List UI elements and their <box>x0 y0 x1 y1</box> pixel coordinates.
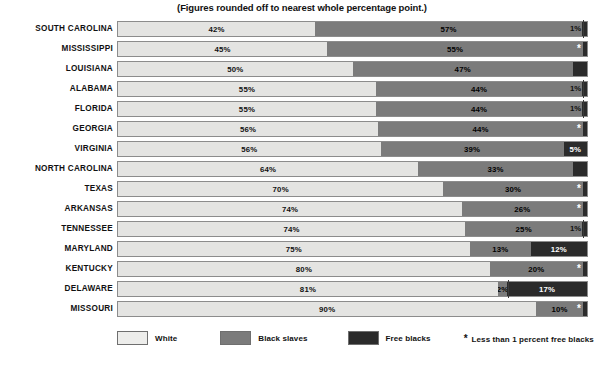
legend-swatch-black-slaves-icon <box>220 331 251 345</box>
stacked-bar: 64%33% <box>117 161 588 177</box>
chart-row: MARYLAND75%13%12% <box>0 240 604 260</box>
legend-footnote: * Less than 1 percent free blacks <box>464 333 594 344</box>
segment-white: 74% <box>118 202 462 216</box>
state-label: DELAWARE <box>0 280 113 297</box>
segment-divider-tick <box>583 100 584 118</box>
segment-free-blacks-value: 1% <box>557 221 581 237</box>
segment-black-slaves: 39% <box>381 142 564 156</box>
segment-divider-tick <box>508 280 509 298</box>
segment-free-blacks-value: 17% <box>539 285 555 294</box>
stacked-bar: 74%25% <box>117 221 588 237</box>
segment-black-slaves-value: 13% <box>492 245 508 254</box>
segment-black-slaves: 13% <box>470 242 531 256</box>
segment-white-value: 81% <box>300 285 316 294</box>
segment-white: 55% <box>118 102 376 116</box>
segment-white-value: 42% <box>208 25 224 34</box>
segment-black-slaves-value: 47% <box>455 65 471 74</box>
less-than-one-percent-asterisk-icon: * <box>577 181 581 197</box>
segment-black-slaves-value: 39% <box>464 145 480 154</box>
segment-white: 55% <box>118 82 376 96</box>
stacked-bar: 56%44% <box>117 121 588 137</box>
chart-row: TENNESSEE74%25%1% <box>0 220 604 240</box>
chart-row: VIRGINIA56%39%5% <box>0 140 604 160</box>
state-label: ARKANSAS <box>0 200 113 217</box>
legend-label-black-slaves: Black slaves <box>258 334 307 343</box>
segment-white-value: 50% <box>227 65 243 74</box>
segment-divider-tick <box>583 20 584 38</box>
segment-black-slaves-value: 20% <box>528 265 544 274</box>
chart-row: MISSOURI90%10%* <box>0 300 604 320</box>
segment-free-blacks: 17% <box>507 282 587 296</box>
segment-free-blacks <box>573 62 587 76</box>
population-composition-chart: (Figures rounded off to nearest whole pe… <box>0 0 604 365</box>
stacked-bar: 56%39%5% <box>117 141 588 157</box>
segment-free-blacks-value: 1% <box>557 81 581 97</box>
chart-title: (Figures rounded off to nearest whole pe… <box>0 2 604 13</box>
stacked-bar: 42%57% <box>117 21 588 37</box>
chart-legend: White Black slaves Free blacks * Less th… <box>117 329 594 347</box>
segment-black-slaves: 44% <box>376 102 582 116</box>
stacked-bar: 50%47% <box>117 61 588 77</box>
state-label: KENTUCKY <box>0 260 113 277</box>
state-label: GEORGIA <box>0 120 113 137</box>
segment-black-slaves-value: 57% <box>441 25 457 34</box>
chart-row: SOUTH CAROLINA42%57%1% <box>0 20 604 40</box>
segment-divider-tick <box>583 80 584 98</box>
segment-white-value: 90% <box>319 305 335 314</box>
segment-black-slaves-value: 44% <box>472 125 488 134</box>
segment-white: 90% <box>118 302 536 316</box>
legend-swatch-free-blacks-icon <box>348 331 379 345</box>
asterisk-icon: * <box>464 333 468 344</box>
state-label: VIRGINIA <box>0 140 113 157</box>
stacked-bar: 90%10% <box>117 301 588 317</box>
segment-black-slaves: 2% <box>498 282 507 296</box>
segment-black-slaves-value: 33% <box>487 165 503 174</box>
segment-free-blacks <box>583 42 587 56</box>
segment-black-slaves: 55% <box>327 42 583 56</box>
less-than-one-percent-asterisk-icon: * <box>577 41 581 57</box>
stacked-bar: 55%44% <box>117 101 588 117</box>
stacked-bar: 74%26% <box>117 201 588 217</box>
segment-black-slaves: 44% <box>378 122 583 136</box>
segment-white: 64% <box>118 162 418 176</box>
legend-item-free-blacks: Free blacks <box>348 331 431 345</box>
chart-row: TEXAS70%30%* <box>0 180 604 200</box>
segment-free-blacks <box>583 302 587 316</box>
stacked-bar: 81%2%17% <box>117 281 588 297</box>
segment-free-blacks: 5% <box>564 142 587 156</box>
chart-row: KENTUCKY80%20%* <box>0 260 604 280</box>
segment-divider-tick <box>583 220 584 238</box>
legend-item-black-slaves: Black slaves <box>220 331 307 345</box>
segment-free-blacks-value: 1% <box>557 21 581 37</box>
segment-black-slaves-value: 30% <box>505 185 521 194</box>
less-than-one-percent-asterisk-icon: * <box>577 121 581 137</box>
state-label: ALABAMA <box>0 80 113 97</box>
segment-free-blacks: 12% <box>531 242 587 256</box>
segment-white-value: 55% <box>239 105 255 114</box>
state-label: NORTH CAROLINA <box>0 160 113 177</box>
state-label: MISSOURI <box>0 300 113 317</box>
segment-white-value: 56% <box>241 145 257 154</box>
state-label: LOUISIANA <box>0 60 113 77</box>
state-label: FLORIDA <box>0 100 113 117</box>
segment-black-slaves-value: 44% <box>471 85 487 94</box>
segment-free-blacks-value: 12% <box>551 245 567 254</box>
segment-white-value: 56% <box>240 125 256 134</box>
segment-black-slaves-value: 55% <box>447 45 463 54</box>
chart-row: ARKANSAS74%26%* <box>0 200 604 220</box>
state-label: TENNESSEE <box>0 220 113 237</box>
segment-black-slaves: 26% <box>462 202 583 216</box>
less-than-one-percent-asterisk-icon: * <box>577 201 581 217</box>
state-label: MARYLAND <box>0 240 113 257</box>
segment-white-value: 75% <box>286 245 302 254</box>
state-label: SOUTH CAROLINA <box>0 20 113 37</box>
stacked-bar: 70%30% <box>117 181 588 197</box>
segment-white-value: 74% <box>283 225 299 234</box>
less-than-one-percent-asterisk-icon: * <box>577 301 581 317</box>
segment-white: 56% <box>118 142 381 156</box>
segment-black-slaves-value: 26% <box>514 205 530 214</box>
stacked-bar: 45%55% <box>117 41 588 57</box>
segment-black-slaves: 57% <box>315 22 582 36</box>
chart-rows: SOUTH CAROLINA42%57%1%MISSISSIPPI45%55%*… <box>0 20 604 320</box>
segment-free-blacks <box>583 262 587 276</box>
